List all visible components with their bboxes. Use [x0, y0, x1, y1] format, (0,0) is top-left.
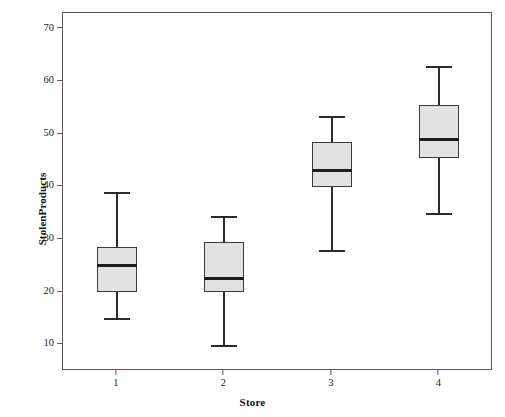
whisker-cap-upper: [104, 192, 130, 194]
iqr-box: [97, 247, 137, 292]
whisker-lower: [331, 187, 333, 250]
x-axis-tick-mark: [438, 370, 439, 375]
whisker-cap-lower: [319, 250, 345, 252]
x-axis-tick: 4: [436, 370, 441, 389]
y-axis-tick-mark: [57, 343, 62, 344]
x-axis-tick-mark: [223, 370, 224, 375]
whisker-cap-lower: [211, 345, 237, 347]
iqr-box: [312, 142, 352, 187]
x-axis-tick: 3: [328, 370, 333, 389]
whisker-upper: [116, 192, 118, 247]
y-axis-tick-mark: [57, 27, 62, 28]
x-axis-title: Store: [0, 396, 505, 408]
whisker-cap-upper: [426, 66, 452, 68]
whisker-cap-lower: [426, 213, 452, 215]
y-axis-tick-mark: [57, 133, 62, 134]
x-axis-tick-label: 1: [113, 378, 118, 389]
y-axis: 10203040506070: [0, 0, 62, 417]
whisker-lower: [223, 292, 225, 345]
whisker-lower: [438, 158, 440, 213]
median-line: [204, 277, 244, 280]
median-line: [419, 138, 459, 141]
whisker-cap-upper: [211, 216, 237, 218]
plot-area: [62, 12, 492, 370]
x-axis-tick-label: 3: [328, 378, 333, 389]
y-axis-tick-label: 70: [44, 23, 58, 34]
whisker-upper: [223, 216, 225, 242]
x-axis-tick-label: 4: [436, 378, 441, 389]
x-axis-tick-mark: [330, 370, 331, 375]
y-axis-tick-label: 60: [44, 75, 58, 86]
y-axis-tick-mark: [57, 185, 62, 186]
median-line: [312, 169, 352, 172]
x-axis: 1234: [0, 370, 505, 396]
y-axis-tick-mark: [57, 291, 62, 292]
x-axis-tick-mark: [115, 370, 116, 375]
boxplot-chart: 10203040506070 StolenProducts 1234 Store: [0, 0, 505, 417]
whisker-cap-upper: [319, 116, 345, 118]
y-axis-tick-mark: [57, 80, 62, 81]
whisker-upper: [438, 66, 440, 105]
iqr-box: [204, 242, 244, 292]
x-axis-tick-label: 2: [221, 378, 226, 389]
y-axis-tick-mark: [57, 238, 62, 239]
y-axis-tick-label: 50: [44, 128, 58, 139]
whisker-cap-lower: [104, 318, 130, 320]
median-line: [97, 264, 137, 267]
y-axis-title: StolenProducts: [36, 172, 48, 245]
whisker-upper: [331, 116, 333, 142]
whisker-lower: [116, 292, 118, 318]
y-axis-tick-label: 10: [44, 338, 58, 349]
x-axis-tick: 1: [113, 370, 118, 389]
x-axis-tick: 2: [221, 370, 226, 389]
y-axis-tick-label: 20: [44, 286, 58, 297]
iqr-box: [419, 105, 459, 158]
